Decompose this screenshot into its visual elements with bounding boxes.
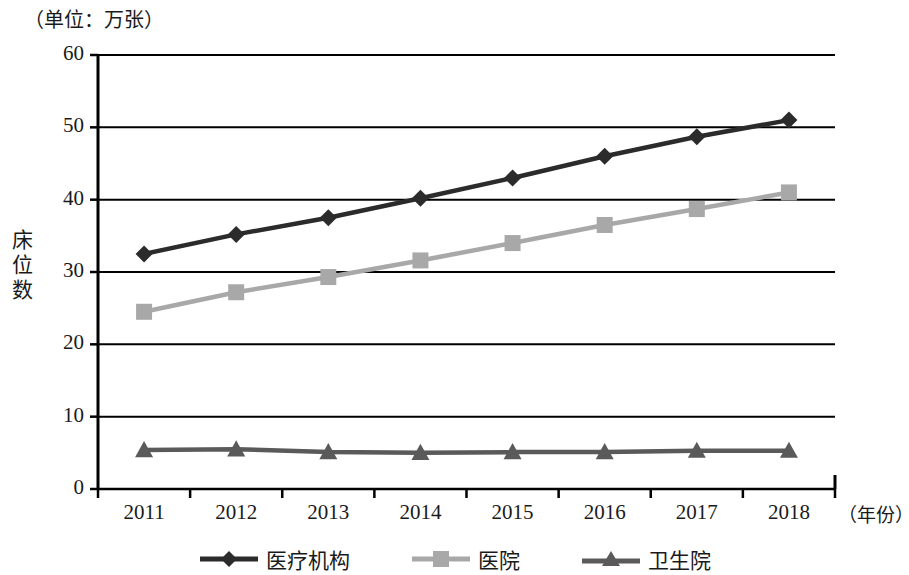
data-point-marker (597, 217, 613, 233)
data-point-marker (781, 184, 797, 200)
data-point-marker (228, 226, 245, 243)
data-point-marker (689, 201, 705, 217)
legend-item-hospitals[interactable]: 医院 (410, 544, 520, 574)
legend-item-health-centers[interactable]: 卫生院 (580, 544, 711, 574)
data-point-marker (504, 169, 521, 186)
legend-label-health-centers: 卫生院 (648, 544, 711, 574)
data-point-marker (320, 269, 336, 285)
legend-label-hospitals: 医院 (478, 544, 520, 574)
data-point-marker (412, 252, 428, 268)
legend-item-medical-institutions[interactable]: 医疗机构 (198, 544, 350, 574)
legend-marker-diamond-icon (198, 549, 260, 569)
plot-area (0, 0, 909, 575)
data-point-marker (688, 128, 705, 145)
chart-container: （单位：万张） 床 位 数 0102030405060 201120122013… (0, 0, 909, 575)
data-point-marker (505, 235, 521, 251)
chart-legend: 医疗机构 医院 卫生院 (0, 543, 909, 575)
legend-marker-square-icon (410, 549, 472, 569)
data-point-marker (136, 245, 153, 262)
series-1 (136, 112, 798, 263)
data-point-marker (412, 190, 429, 207)
series-2 (136, 184, 797, 319)
data-point-marker (320, 209, 337, 226)
data-point-marker (596, 148, 613, 165)
legend-marker-triangle-icon (580, 549, 642, 569)
data-point-marker (780, 112, 797, 129)
data-point-marker (228, 284, 244, 300)
legend-label-medical-institutions: 医疗机构 (266, 544, 350, 574)
data-point-marker (136, 304, 152, 320)
series-3 (135, 440, 798, 460)
